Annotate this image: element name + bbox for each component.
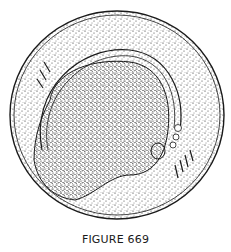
figure-caption: FIGURE 669 (0, 233, 231, 246)
egg-drawing (0, 0, 231, 252)
figure-illustration: FIGURE 669 (0, 0, 231, 252)
